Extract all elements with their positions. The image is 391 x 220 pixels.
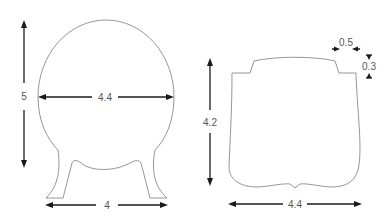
- notch-height-dimension: 0.3: [362, 55, 376, 78]
- right-shape-outline: [229, 57, 360, 188]
- right-height-label: 4.2: [203, 117, 217, 128]
- right-width-dimension: 4.4: [228, 199, 362, 210]
- diagram-canvas: 5 4.4 4 4.2 4.4 0.5: [0, 0, 391, 220]
- left-width-dimension: 4.4: [38, 92, 174, 103]
- right-height-dimension: 4.2: [203, 58, 217, 186]
- notch-height-label: 0.3: [362, 61, 376, 72]
- notch-width-dimension: 0.5: [332, 37, 360, 52]
- left-height-label: 5: [21, 91, 27, 102]
- left-base-label: 4: [104, 200, 110, 211]
- left-shape-outline: [38, 20, 174, 198]
- left-width-label: 4.4: [98, 92, 112, 103]
- left-base-dimension: 4: [45, 200, 168, 211]
- right-width-label: 4.4: [288, 199, 302, 210]
- notch-width-label: 0.5: [339, 37, 353, 48]
- left-height-dimension: 5: [21, 20, 27, 168]
